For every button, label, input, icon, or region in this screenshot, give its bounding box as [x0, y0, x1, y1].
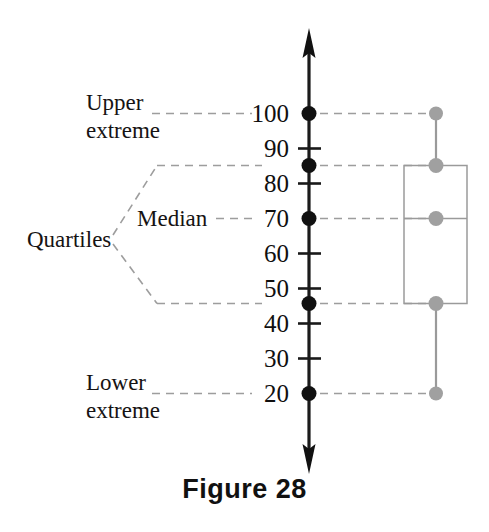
bracket-diagonal-lower: [113, 244, 157, 304]
plot-dot-upper-extreme: [429, 107, 443, 121]
axis-marker-85: [302, 158, 317, 173]
tick-label-80: 80: [264, 170, 289, 197]
tick-label-50: 50: [264, 275, 289, 302]
axis-marker-70: [302, 211, 317, 226]
plot-dot-lower-quartile: [429, 296, 444, 311]
label-lower-extreme-line1: Lower: [86, 370, 146, 395]
interquartile-box: [404, 166, 467, 304]
figure-caption: Figure 28: [0, 474, 489, 505]
vertical-number-line-axis: [303, 28, 316, 474]
tick-label-40: 40: [264, 310, 289, 337]
tick-label-30: 30: [264, 345, 289, 372]
label-quartiles: Quartiles: [27, 227, 111, 252]
plot-dot-median: [429, 211, 444, 226]
label-median: Median: [137, 206, 208, 231]
connector-quartiles-bracket: [113, 166, 262, 304]
tick-label-90: 90: [264, 135, 289, 162]
callout-labels: Upper extreme Quartiles Median Lower ext…: [27, 90, 208, 423]
tick-label-100: 100: [252, 100, 290, 127]
box-and-whisker-plot: [404, 107, 467, 401]
tick-label-70: 70: [264, 205, 289, 232]
box-plot-figure: 100 90 80 70 60 50 40 30 20: [0, 0, 489, 532]
axis-marker-45: [302, 296, 317, 311]
label-lower-extreme-line2: extreme: [86, 398, 160, 423]
label-upper-extreme-line1: Upper: [86, 90, 144, 115]
label-upper-extreme-line2: extreme: [86, 118, 160, 143]
axis-tick-labels: 100 90 80 70 60 50 40 30 20: [252, 100, 290, 407]
tick-label-60: 60: [264, 240, 289, 267]
plot-dot-lower-extreme: [429, 387, 443, 401]
plot-dot-upper-quartile: [429, 158, 444, 173]
axis-marker-20: [302, 386, 317, 401]
tick-label-20: 20: [264, 380, 289, 407]
connector-quartile-values: [320, 166, 432, 304]
figure-container: 100 90 80 70 60 50 40 30 20: [0, 0, 489, 532]
axis-marker-100: [302, 106, 317, 121]
